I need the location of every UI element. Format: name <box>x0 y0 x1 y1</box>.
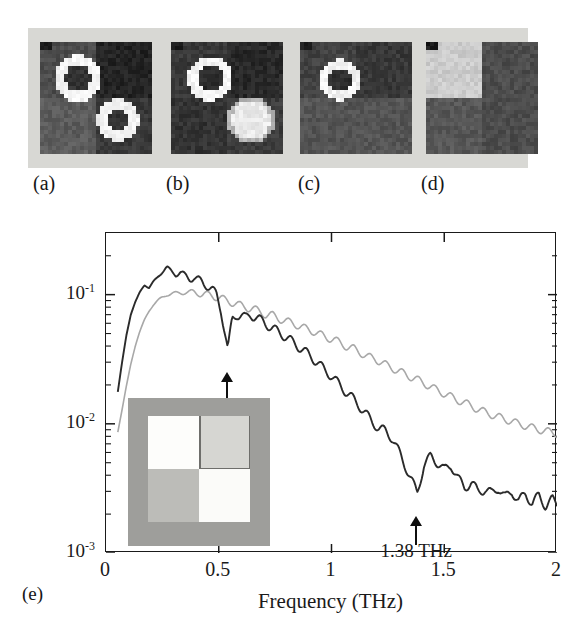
inset-cell-bottom-right <box>199 469 250 522</box>
thz-image-panel-a <box>40 42 152 154</box>
thz-image-panel-d <box>426 42 538 154</box>
panel-label-b: (b) <box>166 172 189 195</box>
figure-root: (a) (b) (c) (d) (e) FFT amplitude 10-1 1… <box>0 0 585 637</box>
panel-label-e: (e) <box>22 583 43 605</box>
x-tick-label-0p5: 0.5 <box>198 558 238 581</box>
thz-image-panel-c <box>300 42 412 154</box>
x-axis-label: Frequency (THz) <box>105 589 556 614</box>
y-tick-label-1e-1: 10-1 <box>37 281 95 304</box>
inset-cell-top-left <box>148 416 199 469</box>
sample-photograph-inset <box>128 398 270 546</box>
x-tick-label-0: 0 <box>85 558 125 581</box>
inset-cell-bottom-left <box>148 469 199 522</box>
thz-image-panel-b <box>171 42 283 154</box>
inset-edge-right <box>249 416 251 469</box>
thz-image-panel-strip <box>28 28 528 168</box>
inset-cell-top-right <box>199 416 250 469</box>
x-tick-label-2: 2 <box>536 558 576 581</box>
panel-label-a: (a) <box>33 172 55 195</box>
inset-edge-vertical <box>199 416 201 469</box>
x-tick-label-1: 1 <box>311 558 351 581</box>
panel-label-d: (d) <box>421 172 444 195</box>
inset-edge-horizontal <box>199 468 250 470</box>
panel-label-c: (c) <box>298 172 320 195</box>
y-tick-label-1e-2: 10-2 <box>37 410 95 433</box>
